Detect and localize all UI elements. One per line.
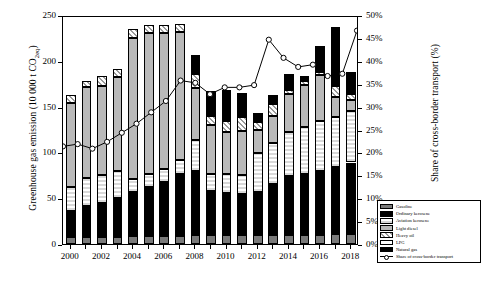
- bar-segment: [268, 143, 278, 183]
- legend-item[interactable]: Share of cross-border transport: [380, 253, 478, 260]
- bar-stack[interactable]: [128, 15, 138, 244]
- bar-stack[interactable]: [268, 15, 278, 244]
- y-tick-label-left: 100: [0, 147, 56, 157]
- bar-segment: [331, 234, 341, 244]
- bar-segment: [346, 94, 356, 100]
- bar-segment: [300, 174, 310, 234]
- bar-segment: [144, 187, 154, 236]
- bar-stack[interactable]: [284, 15, 294, 244]
- x-tick-mark: [163, 245, 164, 249]
- y-tick-mark-left: [58, 245, 62, 246]
- bar-segment: [237, 93, 247, 117]
- y-tick-label-left: 50: [0, 193, 56, 203]
- bar-segment: [315, 235, 325, 244]
- bar-stack[interactable]: [315, 15, 325, 244]
- bar-stack[interactable]: [222, 15, 232, 244]
- bar-segment: [159, 25, 169, 33]
- legend-label: Gasoline: [396, 204, 412, 209]
- bar-segment: [284, 94, 294, 132]
- y-tick-mark-right: [358, 245, 362, 246]
- bar-segment: [113, 171, 123, 198]
- bar-segment: [113, 237, 123, 244]
- bar-segment: [300, 235, 310, 244]
- x-tick-mark: [241, 245, 242, 249]
- x-tick-mark: [70, 245, 71, 249]
- bar-segment: [284, 90, 294, 94]
- bar-stack[interactable]: [346, 15, 356, 244]
- bar-stack[interactable]: [331, 15, 341, 244]
- bar-segment: [128, 29, 138, 38]
- bar-segment: [253, 192, 263, 235]
- legend-item[interactable]: Natural gas: [380, 246, 478, 253]
- y-tick-mark-right: [358, 131, 362, 132]
- bar-stack[interactable]: [206, 15, 216, 244]
- legend-label: Share of cross-border transport: [396, 254, 453, 259]
- bar-stack[interactable]: [113, 15, 123, 244]
- bar-segment: [66, 103, 76, 187]
- bar-segment: [222, 121, 232, 132]
- legend-swatch: [380, 211, 393, 216]
- bar-stack[interactable]: [144, 15, 154, 244]
- y-tick-mark-right: [358, 62, 362, 63]
- y-tick-mark-right: [358, 39, 362, 40]
- bar-stack[interactable]: [159, 15, 169, 244]
- bar-segment: [97, 86, 107, 176]
- x-tick-mark: [319, 245, 320, 249]
- x-tick-mark: [179, 245, 180, 249]
- y-tick-label-left: 250: [0, 10, 56, 20]
- bar-segment: [315, 72, 325, 76]
- x-tick-mark: [350, 245, 351, 249]
- bar-segment: [331, 117, 341, 167]
- bar-segment: [268, 104, 278, 116]
- legend-item[interactable]: Heavy oil: [380, 232, 478, 239]
- bar-segment: [346, 100, 356, 111]
- line-marker[interactable]: [340, 71, 345, 76]
- bar-segment: [346, 72, 356, 94]
- bar-segment: [82, 81, 92, 87]
- legend-item[interactable]: Aviation kerosene: [380, 218, 478, 225]
- bar-stack[interactable]: [237, 15, 247, 244]
- plot-area: [62, 16, 358, 245]
- bar-segment: [300, 81, 310, 85]
- bar-segment: [222, 235, 232, 244]
- bar-segment: [222, 174, 232, 192]
- bar-segment: [159, 169, 169, 182]
- bar-segment: [97, 237, 107, 244]
- bar-segment: [300, 127, 310, 175]
- line-marker[interactable]: [325, 73, 330, 78]
- y-tick-label-left: 200: [0, 56, 56, 66]
- legend-item[interactable]: LPG: [380, 239, 478, 246]
- y-tick-label-left: 0: [0, 239, 56, 249]
- legend-item[interactable]: Light diesel: [380, 225, 478, 232]
- bar-segment: [175, 160, 185, 175]
- bar-stack[interactable]: [175, 15, 185, 244]
- legend-item[interactable]: Ordinary kerosene: [380, 211, 478, 218]
- bar-segment: [237, 194, 247, 235]
- bar-segment: [206, 235, 216, 244]
- bar-segment: [191, 140, 201, 171]
- bar-stack[interactable]: [253, 15, 263, 244]
- legend-swatch: [380, 240, 393, 245]
- y-axis-right-title: Share of cross-border transport (%): [430, 13, 440, 213]
- legend-label: Ordinary kerosene: [396, 211, 430, 216]
- bar-segment: [191, 55, 201, 73]
- legend-swatch: [380, 218, 393, 223]
- bar-segment: [206, 125, 216, 174]
- bar-segment: [284, 235, 294, 244]
- bar-segment: [222, 90, 232, 121]
- x-tick-mark: [85, 245, 86, 249]
- y-tick-label-right: 25%: [366, 125, 383, 135]
- bar-segment: [128, 192, 138, 236]
- bar-stack[interactable]: [191, 15, 201, 244]
- y-tick-mark-right: [358, 16, 362, 17]
- legend-item[interactable]: Gasoline: [380, 204, 478, 211]
- x-tick-mark: [132, 245, 133, 249]
- chart-legend: GasolineOrdinary keroseneAviation kerose…: [377, 200, 481, 263]
- bar-segment: [159, 182, 169, 236]
- bar-stack[interactable]: [300, 15, 310, 244]
- line-marker[interactable]: [75, 142, 80, 147]
- bar-segment: [315, 46, 325, 72]
- bar-stack[interactable]: [82, 15, 92, 244]
- bar-stack[interactable]: [97, 15, 107, 244]
- bar-stack[interactable]: [66, 15, 76, 244]
